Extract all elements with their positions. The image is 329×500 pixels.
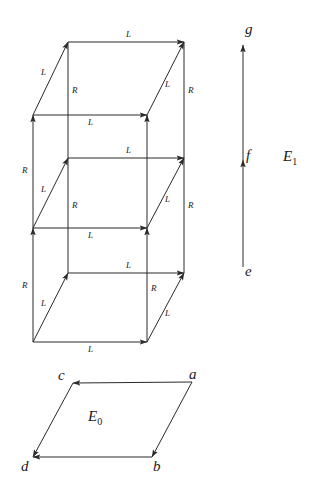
object-label-e1-subscript: 1 bbox=[292, 156, 297, 167]
cube-edge-mid-left-diag bbox=[33, 158, 68, 228]
edge-label-mid-right-diag: L bbox=[165, 195, 170, 204]
edge-label-mid-front-horiz-1: L bbox=[88, 118, 93, 127]
vertex-label-g: g bbox=[245, 22, 253, 37]
vertex-label-d: d bbox=[21, 459, 29, 474]
base-edge-a-to-b bbox=[152, 382, 192, 457]
cube-edge-mid-right-diag bbox=[147, 158, 184, 228]
vertex-label-c: c bbox=[58, 368, 65, 383]
edge-label-low-right-diag: L bbox=[165, 309, 170, 318]
base-edge-c-to-d bbox=[33, 383, 73, 457]
object-label-e0-base: E bbox=[88, 408, 97, 424]
edge-label-top-right-diag: L bbox=[165, 80, 170, 89]
edge-label-mid-left-vert: R bbox=[72, 201, 78, 210]
vertex-label-e: e bbox=[245, 264, 252, 279]
cube-edge-top-left-diag bbox=[33, 42, 68, 115]
edge-label-upper-left-vert: R bbox=[72, 86, 78, 95]
cube-edge-low-left-diag bbox=[33, 273, 68, 342]
edge-label-far-left-vert: R bbox=[22, 166, 28, 175]
base-edge-a-to-c bbox=[73, 382, 192, 383]
edge-label-low-left-diag: L bbox=[41, 299, 46, 308]
edge-label-bottom-front-horiz: L bbox=[88, 345, 93, 354]
object-label-e1-base: E bbox=[283, 148, 292, 164]
edge-label-bottom-left-vert: R bbox=[22, 281, 28, 290]
object-label-e0: E0 bbox=[88, 409, 102, 427]
edge-label-low-back-horiz: L bbox=[126, 261, 131, 270]
object-label-e0-subscript: 0 bbox=[97, 416, 102, 427]
edge-label-bottom-right-vert: R bbox=[151, 284, 157, 293]
edge-label-mid-left-diag: L bbox=[41, 185, 46, 194]
edge-label-mid-right-vert: R bbox=[188, 201, 194, 210]
object-label-e1: E1 bbox=[283, 149, 297, 167]
vertex-label-b: b bbox=[153, 459, 161, 474]
edge-label-low-front-horiz: L bbox=[88, 231, 93, 240]
edge-label-mid-back-horiz: L bbox=[126, 146, 131, 155]
edge-label-top-back-horiz: L bbox=[126, 30, 131, 39]
diagram-svg bbox=[0, 0, 329, 500]
edge-label-upper-right-vert: R bbox=[188, 86, 194, 95]
figure-canvas: L L L R R L L L L R R R L L L L R R L g … bbox=[0, 0, 329, 500]
vertex-label-a: a bbox=[189, 367, 197, 382]
edge-label-top-left-diag: L bbox=[41, 68, 46, 77]
vertex-label-f: f bbox=[246, 148, 250, 163]
